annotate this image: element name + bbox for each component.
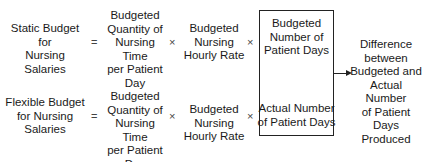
- multiply-sign: ×: [169, 110, 175, 124]
- actual-patient-days-text: Actual Number of Patient Days: [257, 102, 336, 129]
- budgeted-patient-days-text: Budgeted Number of Patient Days: [259, 17, 334, 58]
- multiply-sign: ×: [169, 36, 175, 50]
- difference-result-text: Difference between Budgeted and Actual N…: [348, 38, 424, 146]
- multiply-sign: ×: [247, 36, 253, 50]
- equals-sign: =: [91, 110, 97, 124]
- static-budget-label: Static Budget for Nursing Salaries: [4, 22, 86, 76]
- multiply-sign: ×: [247, 110, 253, 124]
- flexible-budget-label: Flexible Budget for Nursing Salaries: [4, 96, 86, 137]
- equals-sign: =: [91, 36, 97, 50]
- budgeted-rate-text: Budgeted Nursing Hourly Rate: [180, 22, 248, 63]
- budgeted-rate-text: Budgeted Nursing Hourly Rate: [180, 103, 248, 144]
- budgeted-quantity-text: Budgeted Quantity of Nursing Time per Pa…: [102, 9, 168, 90]
- budgeted-quantity-text: Budgeted Quantity of Nursing Time per Pa…: [102, 90, 168, 162]
